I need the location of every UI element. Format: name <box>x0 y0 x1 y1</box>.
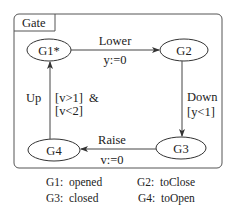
transition-lower-action: y:=0 <box>103 53 126 67</box>
legend-g3: G3: closed <box>46 192 98 204</box>
gate-label: Gate <box>22 16 46 30</box>
transition-up-event: Up <box>26 91 41 105</box>
state-g4-label: G4 <box>46 144 62 158</box>
legend-g4: G4: toOpen <box>138 192 195 204</box>
state-g2-label: G2 <box>176 44 191 58</box>
legend-g2: G2: toClose <box>137 176 195 188</box>
transition-raise-action: v:=0 <box>100 153 123 167</box>
state-g3-label: G3 <box>173 142 188 156</box>
transition-lower-event: Lower <box>99 34 132 48</box>
gate-state-diagram: Gate G1* G2 G3 G4 Lower y:=0 Down [y<1] … <box>0 0 234 216</box>
legend-g1: G1: opened <box>46 176 102 188</box>
transition-down-guard: [y<1] <box>187 105 215 119</box>
transition-raise-event: Raise <box>98 133 126 147</box>
transition-up-guard-2: [v<2] <box>55 104 83 118</box>
transition-up-guard-1: [v>1] & <box>55 91 99 105</box>
transition-down-event: Down <box>187 90 218 104</box>
state-g1-label: G1* <box>38 44 60 58</box>
